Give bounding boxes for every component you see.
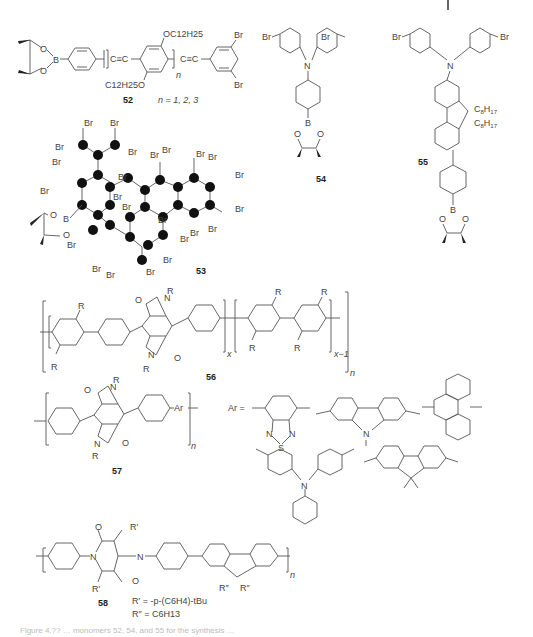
compound-number-53: 53 [196, 266, 206, 276]
compound-number-56: 56 [206, 372, 216, 382]
bromine-label: Br [52, 157, 61, 167]
svg-text:O: O [174, 353, 181, 363]
svg-text:O: O [135, 295, 142, 305]
boron-label: B [63, 214, 69, 224]
repeat-x-minus-1: x−1 [333, 349, 349, 359]
figure-caption: Figure 4.?? … monomers 52, 54, and 55 fo… [20, 626, 235, 635]
bromine-label: Br [55, 142, 64, 152]
alkoxy-bottom: C12H25O [105, 80, 145, 90]
bromine-label: Br [158, 215, 167, 225]
n-values: n = 1, 2, 3 [158, 95, 198, 105]
bromine-label: Br [500, 32, 509, 42]
bromine-label: Br [106, 270, 115, 280]
boron-label: B [450, 205, 456, 215]
svg-text:C≡C: C≡C [110, 54, 129, 64]
r-label: R [143, 364, 150, 374]
oxygen-label: O [40, 44, 47, 54]
oxygen-label: O [63, 230, 70, 240]
svg-text:N: N [148, 350, 155, 360]
svg-text:O: O [122, 438, 129, 448]
svg-text:N: N [301, 481, 308, 491]
bromine-label: Br [208, 152, 217, 162]
ar-carbazole: N [316, 398, 420, 446]
svg-text:O: O [84, 385, 91, 395]
r-label: R [249, 343, 256, 353]
ar-options: N N S N N [252, 374, 482, 524]
compound-number-54: 54 [316, 174, 326, 184]
compound-57: O N R N R O Ar n 57 Ar = [34, 375, 245, 476]
oxygen-label: O [50, 210, 57, 220]
bromine-label: Br [262, 32, 271, 42]
r-prime-label: R′ [130, 522, 138, 532]
bromine-label: Br [196, 149, 205, 159]
compound-number-57: 57 [112, 466, 122, 476]
r-label: R [167, 286, 174, 296]
svg-text:N: N [289, 429, 296, 439]
repeat-n: n [176, 70, 181, 80]
ar-fluorene [364, 446, 458, 488]
r-prime-definition: R′ = -p-(C6H4)-tBu [132, 596, 207, 606]
svg-text:C8H17: C8H17 [474, 104, 498, 115]
r-label: R [294, 343, 301, 353]
r-prime-label: R′ [92, 584, 100, 594]
oxygen-label: O [462, 214, 469, 224]
nitrogen-label: N [304, 61, 311, 71]
svg-text:N: N [94, 439, 101, 449]
bromine-label: Br [146, 267, 155, 277]
svg-text:N: N [266, 429, 273, 439]
compound-52: O O B C≡C OC12H25 C12H25O n C≡C Br Br 52… [18, 29, 243, 105]
oxygen-label: O [439, 214, 446, 224]
r-label: R [113, 375, 120, 385]
oxygen-label: O [294, 129, 301, 139]
structures-figure: O O B C≡C OC12H25 C12H25O n C≡C Br Br 52… [0, 0, 533, 637]
svg-text:N: N [90, 552, 97, 562]
boron-label: B [53, 55, 59, 65]
bromine-label: Br [321, 32, 330, 42]
bromine-label: Br [163, 255, 172, 265]
bromine-label: Br [162, 145, 171, 155]
bromine-label: Br [110, 118, 119, 128]
bromine-label: Br [150, 150, 159, 160]
compound-58: N O R′ R′ O N R″ R″ n 58 R′ = -p-(C6H4)-… [36, 522, 295, 619]
svg-text:N: N [363, 429, 370, 439]
compound-54: Br Br N B O O 54 [262, 28, 345, 184]
compound-53: Br Br Br Br Br Br Br Br Br Br Br Br Br B… [30, 118, 244, 280]
r-label: R [321, 287, 328, 297]
compound-number-58: 58 [98, 598, 108, 608]
bromine-label: Br [40, 186, 49, 196]
bromine-label: Br [180, 234, 189, 244]
bromine-label: Br [84, 118, 93, 128]
bromine-label: Br [67, 240, 76, 250]
bromine-label: Br [128, 147, 137, 157]
compound-55: Br Br N C8H17 C8H17 55 B O O [392, 28, 509, 243]
repeat-n: n [290, 570, 295, 580]
bromine-label: Br [235, 170, 244, 180]
svg-text:C8H17: C8H17 [474, 118, 498, 129]
ar-equals: Ar = [228, 403, 245, 413]
r-label: R [92, 451, 99, 461]
svg-text:O: O [95, 522, 102, 532]
bromine-label: Br [235, 204, 244, 214]
nitrogen-label: N [447, 61, 454, 71]
compound-number-55: 55 [418, 157, 428, 167]
oxygen-label: O [40, 66, 47, 76]
bromine-label: Br [392, 32, 401, 42]
compound-number-52: 52 [123, 95, 133, 105]
svg-text:S: S [278, 443, 284, 453]
repeat-n: n [350, 368, 355, 378]
ar-benzothiadiazole: N N S [252, 396, 310, 453]
bromine-label: Br [113, 192, 122, 202]
ar-triphenylamine: N [256, 449, 354, 524]
compound-56: R R O N R N R O x R R R R x−1 n 56 [40, 286, 355, 382]
r-label: R [51, 362, 58, 372]
svg-text:N: N [137, 552, 144, 562]
svg-text:C≡C: C≡C [180, 54, 199, 64]
bromine-label: Br [234, 30, 243, 40]
bromine-label: Br [118, 172, 127, 182]
r-dprime-label: R″ [240, 583, 250, 593]
repeat-n: n [191, 441, 196, 451]
r-dprime-definition: R″ = C6H13 [132, 609, 180, 619]
ar-label: Ar [174, 403, 183, 413]
bromine-label: Br [190, 228, 199, 238]
r-dprime-label: R″ [219, 583, 229, 593]
